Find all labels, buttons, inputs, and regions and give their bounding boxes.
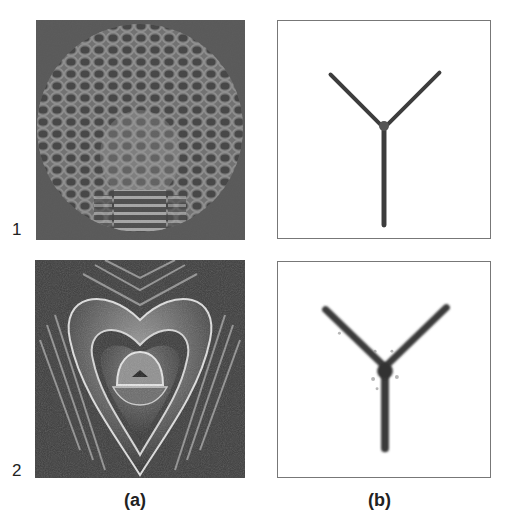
column-label-a: (a) xyxy=(124,490,146,511)
panel-a2-fringe-pattern xyxy=(35,260,245,478)
panel-b2-y-structure xyxy=(277,261,491,478)
panel-a1-honeycomb-pattern xyxy=(36,20,245,240)
y-junction-image xyxy=(278,21,490,238)
row-label-1: 1 xyxy=(12,220,21,240)
y-junction-image-blurred xyxy=(278,262,490,477)
panel-b1-y-structure xyxy=(277,20,491,239)
row-label-2: 2 xyxy=(12,461,21,481)
honeycomb-image xyxy=(36,20,245,240)
column-label-b: (b) xyxy=(368,490,391,511)
fringe-image xyxy=(35,260,245,478)
